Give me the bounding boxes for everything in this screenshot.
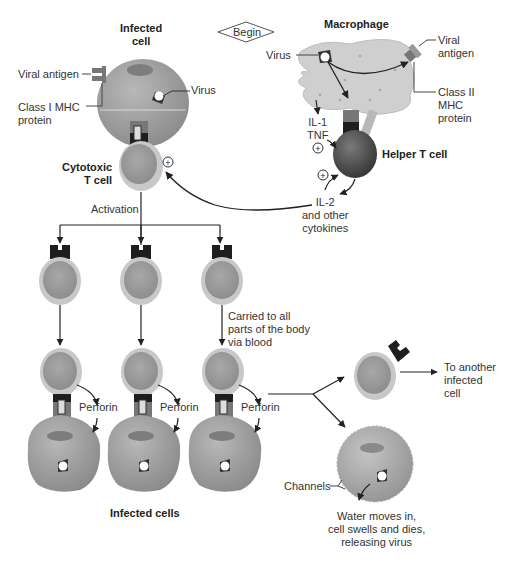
macrophage-label: Macrophage (324, 18, 389, 31)
plus-icon-il2: + (318, 170, 328, 181)
to-another-cell-label: To another infected cell (444, 361, 496, 400)
begin-label: Begin (222, 22, 272, 42)
cytotoxic-t-cell-label: Cytotoxic T cell (62, 161, 112, 187)
cytotoxic-t-cell-top (119, 141, 163, 191)
t-cell-moving-on (354, 340, 410, 400)
t-cell-clone-1 (39, 245, 81, 305)
t-cell-clone-2 (120, 245, 162, 305)
il2-cytokines-label: IL-2 and other cytokines (302, 196, 348, 235)
perforin-label-2: Perforin (160, 401, 199, 414)
perforin-label-1: Perforin (79, 401, 118, 414)
carried-label: Carried to all parts of the body via blo… (228, 310, 310, 349)
killing-pair-1 (28, 348, 100, 492)
virus-label-macrophage: Virus (266, 49, 291, 62)
virus-label-left: Virus (191, 84, 216, 97)
viral-antigen-class-i-mhc-icon (92, 66, 106, 83)
plus-icon-cytotoxic: + (163, 157, 173, 168)
diagram-canvas: + + + (0, 0, 515, 562)
virus-icon-macrophage (318, 50, 332, 63)
helper-t-cell-label: Helper T cell (382, 148, 447, 161)
perforin-label-3: Perforin (241, 401, 280, 414)
plus-icon-il1: + (313, 143, 323, 154)
viral-antigen-label: Viral antigen (18, 68, 79, 81)
class-i-mhc-label: Class I MHC protein (18, 101, 80, 127)
activation-label: Activation (91, 203, 139, 216)
macrophage (298, 39, 414, 114)
viral-antigen-right-label: Viral antigen (438, 34, 474, 60)
il1-tnf-label: IL-1 TNF (307, 116, 328, 142)
nucleus-icon (127, 64, 153, 76)
infected-cell-label: Infected cell (120, 22, 162, 48)
class-ii-mhc-label: Class II MHC protein (438, 86, 475, 125)
svg-text:+: + (320, 171, 325, 181)
channels-label: Channels (284, 480, 330, 493)
t-cell-clone-3 (201, 245, 243, 305)
svg-text:+: + (165, 158, 170, 168)
killing-pair-3 (189, 348, 261, 492)
killing-pair-2 (108, 348, 180, 492)
dying-infected-cell (337, 426, 413, 502)
svg-text:+: + (315, 144, 320, 154)
water-moves-label: Water moves in, cell swells and dies, re… (328, 510, 425, 549)
infected-cells-label: Infected cells (110, 507, 180, 520)
helper-t-cell (333, 130, 377, 178)
